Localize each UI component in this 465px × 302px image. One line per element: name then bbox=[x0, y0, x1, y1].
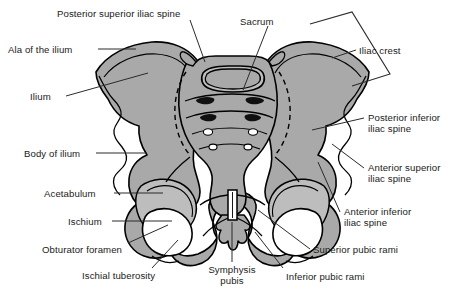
sacral-promontory-inner bbox=[205, 69, 260, 89]
label-acetabulum: Acetabulum bbox=[44, 188, 96, 199]
label-inferior-pubic-rami: Inferior pubic rami bbox=[286, 271, 365, 282]
sacral-foramen-left-4 bbox=[209, 144, 217, 150]
left-obturator-foramen bbox=[143, 209, 193, 256]
label-superior-pubic-rami: Superior pubic rami bbox=[313, 244, 398, 255]
label-anterior-inferior-iliac-spine: Anterior inferior iliac spine bbox=[344, 206, 411, 228]
label-ischial-tuberosity: Ischial tuberosity bbox=[82, 270, 155, 281]
label-ischium: Ischium bbox=[68, 216, 102, 227]
sacral-foramen-right-3 bbox=[248, 129, 257, 135]
label-posterior-superior-iliac-spine: Posterior superior iliac spine bbox=[57, 8, 180, 19]
label-sacrum: Sacrum bbox=[240, 16, 274, 27]
label-obturator-foramen: Obturator foramen bbox=[42, 244, 122, 255]
label-symphysis-pubis: Symphysis pubis bbox=[196, 264, 268, 286]
sacral-foramen-right-4 bbox=[244, 144, 252, 150]
sacral-foramen-left-3 bbox=[203, 129, 212, 135]
label-iliac-crest: Iliac crest bbox=[359, 45, 401, 56]
label-ilium: Ilium bbox=[30, 91, 51, 102]
label-posterior-inferior-iliac-spine: Posterior inferior iliac spine bbox=[368, 112, 440, 134]
label-ala-of-the-ilium: Ala of the ilium bbox=[8, 44, 72, 55]
label-body-of-ilium: Body of ilium bbox=[24, 148, 80, 159]
leader-anterior-superior-iliac-spine bbox=[332, 144, 364, 168]
anatomy-figure: Posterior superior iliac spine Sacrum Il… bbox=[0, 0, 465, 302]
label-anterior-superior-iliac-spine: Anterior superior iliac spine bbox=[368, 162, 441, 184]
